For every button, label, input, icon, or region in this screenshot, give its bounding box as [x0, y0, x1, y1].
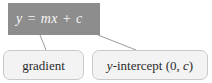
gradient-leader-line — [40, 35, 46, 50]
callout-gradient: gradient — [3, 50, 84, 80]
callout-y-intercept: y-intercept (0, c) — [92, 50, 208, 80]
diagram-canvas: y = mx + c gradient y-intercept (0, c) — [0, 0, 212, 83]
equation-text: y = mx + c — [16, 12, 83, 26]
equation-box: y = mx + c — [8, 3, 100, 35]
callout-gradient-label: gradient — [22, 59, 65, 72]
callout-y-intercept-label: y-intercept (0, c) — [107, 59, 193, 72]
callout-y-intercept-label-close: ) — [189, 58, 193, 73]
intercept-leader-line — [98, 35, 136, 50]
callout-y-intercept-label-body: -intercept (0, — [113, 58, 183, 73]
